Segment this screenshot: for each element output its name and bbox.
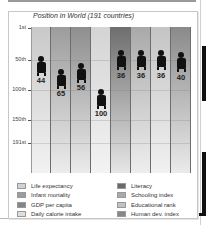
legend-swatch	[117, 183, 126, 189]
legend-swatch	[17, 192, 26, 198]
y-tick-1st: 1st	[0, 24, 26, 30]
legend-swatch	[117, 211, 126, 217]
legend-item: Daily calorie intake	[17, 210, 81, 220]
y-tick-191st: 191st	[0, 139, 26, 145]
column-gdp-per-capita	[71, 27, 91, 173]
legend-label: Educational rank	[131, 202, 176, 208]
legend-item: Educational rank	[117, 200, 179, 210]
gridline	[31, 143, 191, 144]
legend-label: Daily calorie intake	[31, 211, 81, 217]
legend-item: Human dev. index	[117, 210, 179, 220]
y-tick-50th: 50th	[0, 56, 26, 62]
legend-item: Infant mortality	[17, 191, 81, 201]
value-label: 40	[171, 73, 191, 82]
value-label: 65	[51, 89, 71, 98]
legend-item: Life expectancy	[17, 181, 81, 191]
column-infant-mortality	[51, 27, 71, 173]
value-label: 36	[131, 71, 151, 80]
person-icon	[55, 69, 67, 89]
edge-bar-bottom	[202, 152, 206, 216]
person-icon	[115, 50, 127, 70]
gridline	[31, 60, 191, 61]
person-icon	[135, 50, 147, 70]
y-tick-100th: 100th	[0, 86, 26, 92]
value-label: 36	[111, 71, 131, 80]
legend-label: Infant mortality	[31, 192, 70, 198]
legend-item: GDP per capita	[17, 200, 81, 210]
person-icon	[95, 89, 107, 109]
value-label: 100	[91, 109, 111, 118]
legend-right: Literacy Schooling index Educational ran…	[117, 181, 179, 219]
edge-bar-top	[202, 46, 206, 101]
legend-swatch	[17, 202, 26, 208]
person-icon	[175, 52, 187, 72]
legend-swatch	[117, 202, 126, 208]
column-human-dev-index	[171, 27, 191, 173]
right-frame	[200, 0, 201, 225]
person-icon	[155, 50, 167, 70]
legend-swatch	[117, 192, 126, 198]
legend-label: Life expectancy	[31, 183, 73, 189]
person-icon	[35, 56, 47, 76]
legend-label: Schooling index	[131, 192, 173, 198]
legend-label: Literacy	[131, 183, 152, 189]
column-schooling-index	[131, 27, 151, 173]
column-life-expectancy	[31, 27, 51, 173]
person-icon	[75, 63, 87, 83]
legend-label: Human dev. index	[131, 211, 179, 217]
chart-title: Position in World (191 countries)	[33, 12, 134, 19]
legend-label: GDP per capita	[31, 202, 72, 208]
legend-swatch	[17, 211, 26, 217]
plot-area	[31, 27, 191, 173]
column-literacy	[111, 27, 131, 173]
column-educational-rank	[151, 27, 171, 173]
legend-swatch	[17, 183, 26, 189]
value-label: 56	[71, 83, 91, 92]
value-label: 44	[31, 76, 51, 85]
legend-item: Literacy	[117, 181, 179, 191]
y-tick-150th: 150th	[0, 116, 26, 122]
gridline	[31, 120, 191, 121]
legend-item: Schooling index	[117, 191, 179, 201]
top-divider	[8, 0, 196, 2]
value-label: 36	[151, 71, 171, 80]
legend-left: Life expectancy Infant mortality GDP per…	[17, 181, 81, 219]
